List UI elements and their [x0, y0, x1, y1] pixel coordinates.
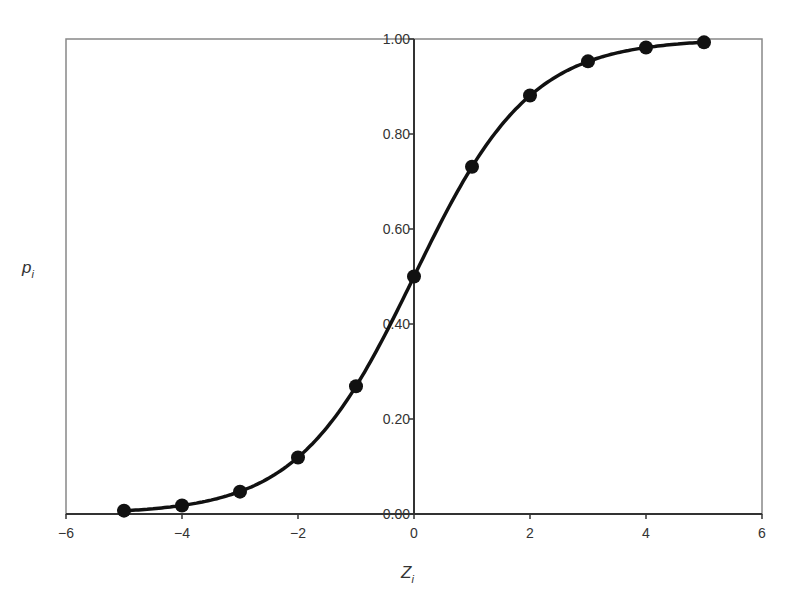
y-tick-label: 1.00 — [383, 31, 410, 47]
x-axis-title: Zi — [400, 563, 414, 585]
x-tick-label: 2 — [526, 525, 534, 541]
y-tick-label: 0.60 — [383, 221, 410, 237]
x-tick-label: −6 — [58, 525, 74, 541]
data-point — [407, 270, 421, 284]
x-axis: −6−4−20246 — [58, 514, 766, 541]
data-point — [465, 160, 479, 174]
data-point — [175, 498, 189, 512]
data-point — [291, 450, 305, 464]
x-tick-label: 0 — [410, 525, 418, 541]
x-tick-label: 4 — [642, 525, 650, 541]
y-tick-label: 0.80 — [383, 126, 410, 142]
x-tick-label: 6 — [758, 525, 766, 541]
logistic-chart: 0.000.200.400.600.801.00 −6−4−20246 pi Z… — [0, 0, 785, 609]
data-point — [697, 35, 711, 49]
y-tick-label: 0.20 — [383, 411, 410, 427]
data-point — [639, 41, 653, 55]
data-point — [349, 379, 363, 393]
data-point — [581, 54, 595, 68]
y-axis-title: pi — [21, 258, 34, 280]
x-tick-label: −4 — [174, 525, 190, 541]
data-point — [523, 89, 537, 103]
x-tick-label: −2 — [290, 525, 306, 541]
data-point — [117, 504, 131, 518]
data-point — [233, 485, 247, 499]
